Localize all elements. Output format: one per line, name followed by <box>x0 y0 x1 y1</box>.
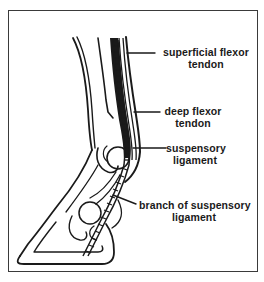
front-outline-outer <box>73 38 92 150</box>
label-superficial-flexor-tendon: superficial flexor tendon <box>158 46 254 70</box>
label-line-1: deep flexor <box>161 105 225 117</box>
label-line-1: branch of suspensory <box>139 199 249 211</box>
label-line-1: suspensory <box>166 142 224 154</box>
short-pastern-bone <box>79 202 101 224</box>
cannon-bone-line <box>98 38 113 118</box>
pastern-rear <box>90 172 116 198</box>
label-line-2: tendon <box>158 58 254 70</box>
coffin-bone-region <box>69 216 87 240</box>
label-line-2: ligament <box>166 154 224 166</box>
label-deep-flexor-tendon: deep flexor tendon <box>161 105 225 129</box>
label-line-2: tendon <box>161 117 225 129</box>
label-line-1: superficial flexor <box>158 46 254 58</box>
hoof-wall-outer <box>18 224 114 264</box>
label-line-2: ligament <box>139 211 249 223</box>
horse-leg-illustration <box>0 0 264 282</box>
label-suspensory-ligament: suspensory ligament <box>166 142 224 166</box>
label-branch-of-suspensory-ligament: branch of suspensory ligament <box>139 199 249 223</box>
